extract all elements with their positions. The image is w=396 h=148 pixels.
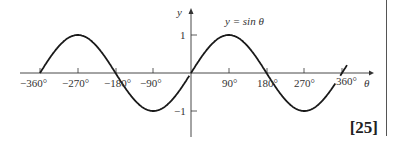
y-axis-arrow-icon xyxy=(189,8,194,14)
sine-chart: −360° −270° −180° −90° 90° 180° 270° 360… xyxy=(0,0,396,148)
x-axis-arrow-icon xyxy=(369,71,374,76)
x-tick-label: 90° xyxy=(222,77,237,89)
y-axis-label: y xyxy=(176,6,182,18)
x-axis-label: θ xyxy=(364,77,370,89)
x-tick-label: −270° xyxy=(62,77,89,89)
curve-annotation: y = sin θ xyxy=(224,15,264,27)
x-tick-label: 360° xyxy=(336,75,357,87)
margin-rule xyxy=(386,0,387,136)
y-tick-label: 1 xyxy=(180,29,186,41)
marks-label: [25] xyxy=(350,118,378,138)
x-tick-label: −360° xyxy=(20,77,47,89)
x-tick-label: 180° xyxy=(257,77,278,89)
x-tick-label: −90° xyxy=(140,77,162,89)
x-tick-label: 270° xyxy=(294,77,315,89)
y-tick-label: −1 xyxy=(174,105,186,117)
x-tick-label: −180° xyxy=(104,77,131,89)
